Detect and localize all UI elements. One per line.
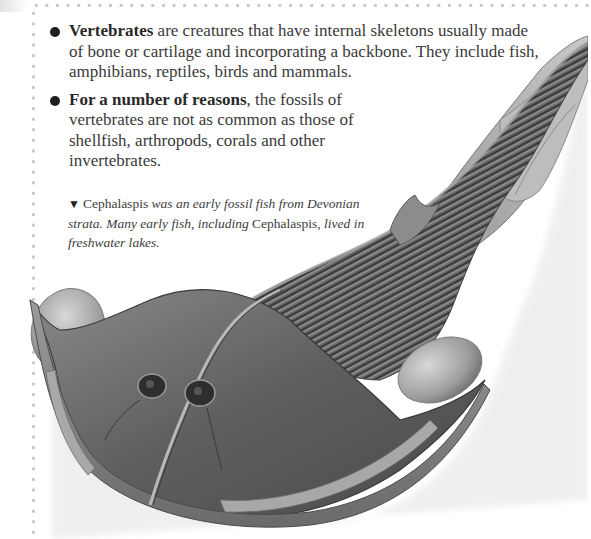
bullet-icon [50,27,60,37]
bullet-item-reasons: For a number of reasons, the fossils of … [50,90,369,172]
caption-term: Cephalaspis [83,196,148,211]
bullet-item-vertebrates: Vertebrates are creatures that have inte… [50,21,539,83]
bullet-icon [50,96,60,106]
bullet-bold-term: For a number of reasons [69,90,247,109]
figure-caption: ▼Cephalaspis was an early fossil fish fr… [68,194,368,252]
triangle-down-icon: ▼ [68,197,80,211]
bullet-bold-term: Vertebrates [69,21,153,40]
bullet-list: Vertebrates are creatures that have inte… [50,21,570,179]
caption-term: Cephalaspis, [252,216,321,231]
